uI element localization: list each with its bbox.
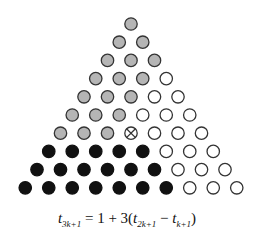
gray-dot	[90, 72, 102, 84]
crossed-dot	[125, 127, 137, 139]
black-dot	[31, 163, 43, 175]
black-dot	[19, 182, 31, 194]
gray-dot	[101, 91, 113, 103]
black-dot	[137, 182, 149, 194]
white-dot	[207, 182, 219, 194]
white-dot	[207, 145, 219, 157]
gray-dot	[113, 72, 125, 84]
formula-b-sub: k+1	[177, 219, 192, 229]
formula-one: 1	[97, 210, 105, 226]
white-dot	[184, 109, 196, 121]
formula-lhs-sub: 3k+1	[62, 219, 81, 229]
gray-dot	[125, 91, 137, 103]
gray-dot	[148, 54, 160, 66]
formula-three: 3(	[121, 210, 134, 226]
gray-dot	[137, 36, 149, 48]
formula-equals: =	[85, 210, 93, 226]
black-dot	[160, 182, 172, 194]
white-dot	[160, 145, 172, 157]
black-dot	[66, 182, 78, 194]
gray-dot	[54, 127, 66, 139]
white-dot	[160, 109, 172, 121]
black-dot	[54, 163, 66, 175]
white-dot	[195, 127, 207, 139]
triangle-dot-diagram	[0, 0, 254, 200]
gray-dot	[66, 109, 78, 121]
black-dot	[113, 182, 125, 194]
gray-dot	[90, 109, 102, 121]
black-dot	[43, 145, 55, 157]
black-dot	[137, 145, 149, 157]
gray-dot	[78, 127, 90, 139]
white-dot	[172, 91, 184, 103]
gray-dot	[113, 36, 125, 48]
white-dot	[148, 91, 160, 103]
black-dot	[113, 145, 125, 157]
white-dot	[219, 163, 231, 175]
formula-a-sub: 2k+1	[137, 219, 156, 229]
formula: t3k+1 = 1 + 3(t2k+1 − tk+1)	[0, 210, 254, 229]
gray-dot	[101, 127, 113, 139]
gray-dot	[78, 91, 90, 103]
formula-close: )	[191, 210, 196, 226]
black-dot	[90, 145, 102, 157]
black-dot	[66, 145, 78, 157]
gray-dot	[101, 54, 113, 66]
white-dot	[137, 109, 149, 121]
black-dot	[90, 182, 102, 194]
gray-dot	[125, 18, 137, 30]
gray-dot	[137, 72, 149, 84]
formula-plus: +	[108, 210, 116, 226]
black-dot	[125, 163, 137, 175]
black-dot	[43, 182, 55, 194]
white-dot	[195, 163, 207, 175]
gray-dot	[113, 109, 125, 121]
white-dot	[231, 182, 243, 194]
white-dot	[172, 127, 184, 139]
black-dot	[148, 163, 160, 175]
white-dot	[148, 127, 160, 139]
white-dot	[184, 182, 196, 194]
white-dot	[160, 72, 172, 84]
white-dot	[172, 163, 184, 175]
white-dot	[184, 145, 196, 157]
formula-minus: −	[160, 210, 168, 226]
gray-dot	[125, 54, 137, 66]
black-dot	[101, 163, 113, 175]
black-dot	[78, 163, 90, 175]
